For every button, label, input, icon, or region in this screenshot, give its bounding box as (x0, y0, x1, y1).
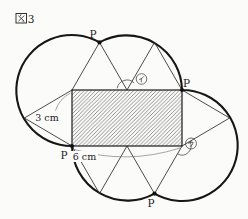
geometry-figure-canvas: 3 3 cm 6 cm P P P P (0, 0, 248, 219)
p-label-bottom: P (147, 197, 154, 209)
hatched-rectangle (72, 90, 182, 146)
p-label-left: P (60, 149, 67, 161)
p-label-right: P (183, 77, 190, 89)
p-point-dot-left (70, 144, 74, 148)
p-point-dot-bottom (152, 192, 156, 196)
p-label-top: P (89, 28, 96, 40)
p-point-dot-top (97, 40, 101, 44)
rect-width-label: 6 cm (73, 151, 96, 162)
rect-height-label: 3 cm (35, 112, 58, 123)
p-point-dot-right (180, 88, 184, 92)
figure-number: 3 (28, 13, 35, 25)
